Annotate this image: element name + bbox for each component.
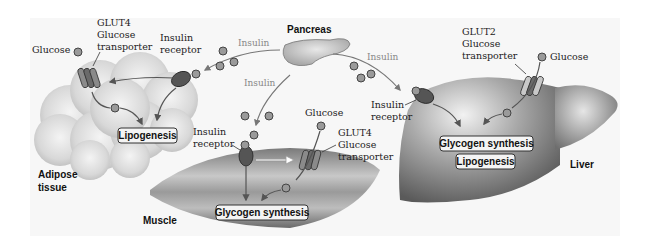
liver-lipogenesis-box: Lipogenesis — [456, 154, 515, 169]
liver-transporter-label-3: transporter — [462, 50, 518, 61]
muscle-glycogen-synthesis-box: Glycogen synthesis — [215, 205, 310, 220]
muscle-glucose-label: Glucose — [305, 107, 344, 118]
glucose-molecule-icon — [74, 48, 82, 56]
muscle-label: Muscle — [143, 215, 177, 226]
adipose-transporter-label-2: Glucose — [97, 29, 136, 40]
muscle-process-label: Glycogen synthesis — [215, 207, 310, 218]
insulin-molecule-icon — [265, 112, 273, 120]
glucose-molecule-icon — [282, 184, 290, 192]
adipose-lipogenesis-box: Lipogenesis — [118, 128, 177, 143]
adipose-label-2: tissue — [38, 182, 67, 193]
glucose-molecule-icon — [111, 104, 119, 112]
adipose-transporter-label-3: transporter — [97, 41, 153, 52]
insulin-molecule-icon — [216, 62, 224, 70]
liver-glycogen-synthesis-box: Glycogen synthesis — [439, 136, 534, 151]
adipose-receptor-label-2: receptor — [160, 44, 202, 55]
muscle-transporter-label-2: Glucose — [338, 139, 377, 150]
insulin-molecule-icon — [367, 70, 375, 78]
liver-receptor-label-1: Insulin — [371, 99, 404, 110]
muscle-receptor-label-2: receptor — [193, 138, 235, 149]
insulin-action-diagram: Glucose GLUT4 Glucose transporter Insuli… — [0, 0, 651, 245]
liver-transporter-label-1: GLUT2 — [462, 26, 496, 37]
liver-process-label-2: Lipogenesis — [456, 156, 515, 167]
glucose-molecule-icon — [317, 122, 325, 130]
insulin-label-adipose: Insulin — [238, 38, 270, 48]
pancreas-label: Pancreas — [287, 24, 332, 35]
glucose-molecule-icon — [538, 53, 546, 61]
glucose-molecule-icon — [503, 109, 511, 117]
adipose-process-label: Lipogenesis — [118, 130, 177, 141]
insulin-label-muscle: Insulin — [244, 78, 276, 88]
adipose-label-1: Adipose — [38, 169, 78, 180]
muscle-transporter-label-3: transporter — [338, 151, 394, 162]
muscle-transporter-label-1: GLUT4 — [338, 127, 372, 138]
liver-glucose-label: Glucose — [550, 51, 589, 62]
liver-label: Liver — [570, 159, 594, 170]
adipose-glucose-label: Glucose — [32, 44, 71, 55]
adipose-receptor-label-1: Insulin — [160, 32, 193, 43]
insulin-molecule-icon — [230, 58, 238, 66]
insulin-molecule-icon — [350, 62, 358, 70]
insulin-molecule-icon — [241, 112, 249, 120]
adipose-transporter-label-1: GLUT4 — [97, 17, 131, 28]
insulin-label-liver: Insulin — [367, 52, 399, 62]
insulin-molecule-icon — [250, 131, 258, 139]
muscle-receptor-label-1: Insulin — [193, 126, 226, 137]
liver-transporter-label-2: Glucose — [462, 38, 501, 49]
insulin-molecule-icon — [219, 47, 227, 55]
insulin-molecule-icon — [357, 74, 365, 82]
liver-receptor-label-2: receptor — [371, 111, 413, 122]
liver-process-label-1: Glycogen synthesis — [439, 138, 534, 149]
